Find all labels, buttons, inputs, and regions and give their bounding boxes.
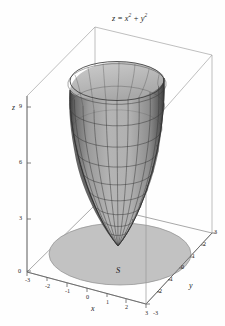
z-axis-label: z	[12, 104, 15, 112]
x-tick-0: -3	[25, 277, 30, 283]
y-tick-5: -2	[157, 288, 162, 294]
y-tick-4: -1	[168, 276, 173, 282]
y-tick-6: -3	[153, 310, 158, 316]
paraboloid-3d-plot	[0, 0, 225, 326]
z-tick-3: 0	[18, 268, 21, 274]
y-axis-label: y	[189, 282, 193, 290]
x-tick-5: 2	[125, 304, 128, 310]
figure-canvas: z = x2 + y2 x y z S 9 6 3 0 -3 -2 -1 0 1…	[0, 0, 225, 326]
plot-title: z = x2 + y2	[112, 13, 147, 23]
z-axis	[27, 96, 31, 272]
y-tick-0: 3	[214, 229, 217, 235]
title-exponent-y: 2	[144, 12, 147, 18]
x-axis-label: x	[91, 305, 95, 313]
y-tick-2: 1	[192, 253, 195, 259]
y-tick-1: 2	[203, 241, 206, 247]
z-tick-1: 6	[19, 159, 22, 165]
z-tick-0: 9	[19, 103, 22, 109]
z-tick-2: 3	[19, 215, 22, 221]
x-tick-2: -1	[65, 288, 70, 294]
x-tick-1: -2	[45, 283, 50, 289]
region-label-S: S	[116, 267, 120, 275]
title-mid: + y	[131, 14, 144, 23]
x-tick-6: 3	[145, 310, 148, 316]
title-lead: z = x	[112, 14, 128, 23]
x-tick-3: 0	[86, 294, 89, 300]
y-tick-3: 0	[181, 264, 184, 270]
x-tick-4: 1	[106, 299, 109, 305]
